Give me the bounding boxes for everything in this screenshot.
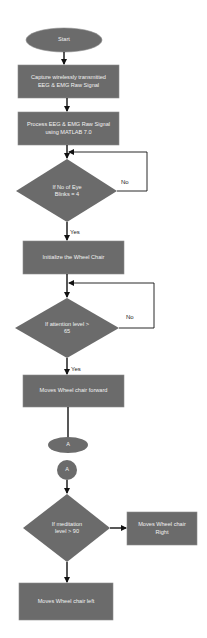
initialize-label: Initialize the Wheel Chair	[23, 241, 124, 274]
connector-in-label: A	[57, 460, 77, 480]
decision-meditation-label: If meditation level > 90	[47, 512, 87, 544]
decision-blinks-label: If No of Eye Blinks = 4	[46, 176, 88, 206]
edge-label-attention-yes: Yes	[71, 366, 81, 372]
edge-label-blinks-yes: Yes	[70, 229, 80, 235]
start-label: Start	[26, 28, 102, 52]
edge-label-attention-no: No	[126, 314, 134, 320]
connector-out-label: A	[48, 437, 88, 453]
left-label: Moves Wheel chair left	[19, 583, 113, 620]
right-label: Moves Wheel chair Right	[133, 512, 191, 545]
decision-attention-label: If attention level > 65	[44, 313, 90, 343]
process-label: Process EEG & EMG Raw Signal using MATLA…	[26, 112, 111, 145]
capture-label: Capture wirelessly transmitted EEG & EMG…	[28, 65, 109, 98]
forward-label: Moves Wheel chair forward	[23, 375, 124, 407]
edge-label-blinks-no: No	[121, 179, 129, 185]
